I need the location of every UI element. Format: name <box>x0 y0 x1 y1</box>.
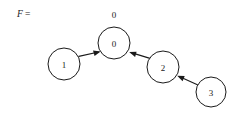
edge-2-to-0-arrowhead <box>129 52 136 57</box>
edge-3-to-2 <box>177 76 197 85</box>
node-3-label: 3 <box>209 88 214 98</box>
root-outer-label: 0 <box>112 10 117 20</box>
graph-node-1[interactable]: 1 <box>48 48 80 80</box>
figure-caption-symbol: F <box>16 9 23 19</box>
edge-3-to-2-arrowhead <box>177 76 185 82</box>
figure-caption-equals: = <box>25 9 30 19</box>
edge-2-to-0 <box>129 52 150 59</box>
graph-node-2[interactable]: 2 <box>147 51 179 83</box>
directed-graph-canvas: 0 1 2 3 0 F = <box>0 0 238 114</box>
node-2-label: 2 <box>161 63 166 73</box>
edge-1-to-0 <box>79 51 101 57</box>
figure-root: 0 1 2 3 0 F = <box>0 0 238 114</box>
node-0-label: 0 <box>112 39 117 49</box>
node-1-label: 1 <box>62 60 67 70</box>
graph-node-3[interactable]: 3 <box>196 77 226 107</box>
edge-1-to-0-arrowhead <box>93 51 101 56</box>
graph-node-0[interactable]: 0 <box>98 27 130 59</box>
